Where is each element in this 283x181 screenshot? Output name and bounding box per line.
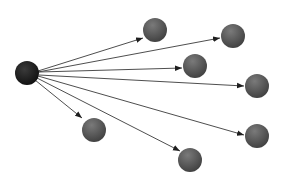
target-node-n3 xyxy=(183,54,207,78)
target-node-n1 xyxy=(143,18,167,42)
target-node-n2 xyxy=(221,24,245,48)
hub-node xyxy=(15,61,39,85)
target-node-n7 xyxy=(82,118,106,142)
target-node-n6 xyxy=(178,148,202,172)
target-node-n4 xyxy=(245,74,269,98)
target-node-n5 xyxy=(245,124,269,148)
star-graph-diagram xyxy=(0,0,283,181)
